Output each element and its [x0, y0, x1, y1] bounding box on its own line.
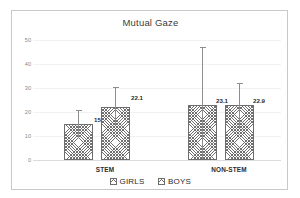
data-label-nonstem-boys: 22.9	[253, 97, 265, 104]
legend-item-girls[interactable]: GIRLS	[110, 177, 145, 186]
errorbar-stem-boys	[115, 87, 116, 125]
y-tick-label-50: 50	[15, 37, 31, 43]
errorbar-cap-top	[237, 83, 243, 84]
category-label-stem: STEM	[70, 166, 140, 173]
gridline-30	[33, 88, 281, 89]
legend-label-boys: BOYS	[168, 177, 191, 186]
y-tick-label-40: 40	[15, 61, 31, 67]
y-tick-label-10: 10	[15, 133, 31, 139]
y-axis: 50 40 30 20 10 0	[13, 36, 31, 164]
y-tick-label-0: 0	[15, 157, 31, 163]
errorbar-cap-top	[76, 110, 82, 111]
y-tick-label-30: 30	[15, 85, 31, 91]
gridline-50	[33, 40, 281, 41]
chart-frame: Mutual Gaze 50 40 30 20 10 0 15.1 22.1	[11, 10, 288, 190]
axis-baseline	[33, 160, 281, 161]
errorbar-nonstem-girls	[202, 47, 203, 159]
errorbar-cap-top	[113, 87, 119, 88]
errorbar-stem-girls	[78, 110, 79, 139]
legend-swatch-icon	[158, 178, 165, 185]
data-label-stem-boys: 22.1	[131, 94, 143, 101]
category-label-nonstem: NON-STEM	[194, 166, 264, 173]
legend-label-girls: GIRLS	[119, 177, 144, 186]
y-tick-label-20: 20	[15, 109, 31, 115]
plot-area: 15.1 22.1 23.1 22.9	[33, 36, 281, 164]
data-label-nonstem-girls: 23.1	[216, 97, 228, 104]
errorbar-nonstem-boys	[239, 83, 240, 127]
errorbar-cap-top	[200, 47, 206, 48]
gridline-40	[33, 64, 281, 65]
chart-legend: GIRLS BOYS	[12, 177, 289, 186]
chart-title: Mutual Gaze	[12, 17, 289, 28]
legend-swatch-icon	[110, 178, 117, 185]
legend-item-boys[interactable]: BOYS	[158, 177, 191, 186]
